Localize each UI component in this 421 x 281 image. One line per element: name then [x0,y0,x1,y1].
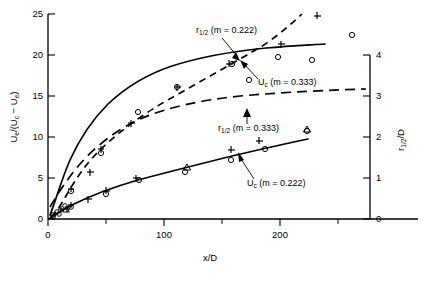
tick-left-0: 0 [38,213,43,224]
tick-bottom-200: 200 [272,229,288,240]
axis-bottom-tick-labels: 0 100 200 [45,229,288,240]
tick-left-15: 15 [32,90,43,101]
axis-right-tick-labels: 0 1 2 3 4 [376,49,381,224]
chart-canvas: 0 5 10 15 20 25 Ue/(Uc − Ue) 0 1 2 3 4 [0,0,421,281]
tick-left-10: 10 [32,131,43,142]
right-title-sub: 1/2 [400,138,407,147]
axis-bottom [48,219,418,226]
tick-left-20: 20 [32,49,43,60]
tick-left-5: 5 [38,172,43,183]
left-title-closeparen: ) [8,91,19,94]
axis-right-title: r1/2/D [395,129,407,151]
annotation-r-half-0222: r1/2 (m = 0.222) [196,25,257,61]
axis-left [48,14,55,219]
tick-bottom-0: 0 [45,229,50,240]
markers-uc-0333 [51,12,355,217]
svg-text:Ue/(Uc − Ue): Ue/(Uc − Ue) [8,91,20,142]
curve-r-half-0222 [50,44,325,215]
annot1-tail: (m = 0.222) [208,25,257,35]
left-title-minusU: − U [8,98,19,116]
annotation-uc-0333-text: Uc (m = 0.333) [258,77,317,88]
annotation-r-half-0333: r1/2 (m = 0.333) [218,108,279,134]
annotation-uc-0222: Uc (m = 0.222) [238,152,306,189]
axis-bottom-title: x/D [203,252,217,263]
tick-right-3: 3 [376,90,381,101]
right-title-slashD: /D [395,129,406,139]
tick-right-1: 1 [376,172,381,183]
annot4-tail: (m = 0.222) [257,178,306,188]
annotation-r-half-0333-text: r1/2 (m = 0.333) [218,123,279,134]
tick-bottom-100: 100 [156,229,172,240]
axis-left-tick-labels: 0 5 10 15 20 25 [32,8,43,224]
annotation-r-half-0222-text: r1/2 (m = 0.222) [196,25,257,36]
svg-text:r1/2/D: r1/2/D [395,129,407,151]
annotation-uc-0222-text: Uc (m = 0.222) [247,178,306,189]
tick-left-25: 25 [32,8,43,19]
annotation-uc-0333: Uc (m = 0.333) [240,60,317,88]
tick-right-2: 2 [376,131,381,142]
figure-container: 0 5 10 15 20 25 Ue/(Uc − Ue) 0 1 2 3 4 [0,0,421,281]
annot3-sub: 1/2 [221,127,230,134]
axis-left-title: Ue/(Uc − Ue) [8,91,20,142]
axis-right [363,55,370,219]
tick-right-4: 4 [376,49,381,60]
left-title-slashparen: /(U [8,119,19,132]
annot1-sub: 1/2 [199,29,208,36]
annot2-tail: (m = 0.333) [268,77,317,87]
curve-r-half-0333 [50,89,366,207]
annot3-tail: (m = 0.333) [230,123,279,133]
